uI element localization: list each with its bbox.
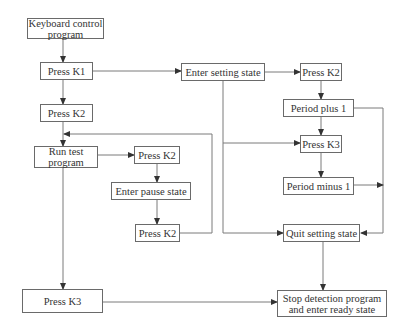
node-enter-setting-state: Enter setting state xyxy=(181,63,265,81)
node-label-line1: Stop detection program xyxy=(283,293,382,304)
node-label-line2: program xyxy=(48,29,84,40)
node-label-line2: and enter ready state xyxy=(289,304,376,315)
node-label-line2: program xyxy=(48,157,84,168)
node-period-minus-1: Period minus 1 xyxy=(283,177,354,195)
node-press-k2-right: Press K2 xyxy=(300,63,342,81)
node-press-k1: Press K1 xyxy=(40,62,93,80)
node-press-k2-pause: Press K2 xyxy=(135,224,180,242)
node-label-line1: Run test xyxy=(49,146,84,157)
node-quit-setting-state: Quit setting state xyxy=(283,224,360,242)
node-press-k3-left: Press K3 xyxy=(22,289,103,313)
node-press-k3-right: Press K3 xyxy=(300,135,342,153)
node-keyboard-control-program: Keyboard control program xyxy=(27,18,104,39)
node-period-plus-1: Period plus 1 xyxy=(283,99,354,117)
node-stop-detection-program: Stop detection program and enter ready s… xyxy=(277,290,387,317)
node-press-k2-mid: Press K2 xyxy=(134,146,180,164)
node-run-test-program: Run test program xyxy=(34,146,98,168)
node-label-line1: Keyboard control xyxy=(29,18,103,29)
node-enter-pause-state: Enter pause state xyxy=(111,182,191,200)
node-press-k2-left: Press K2 xyxy=(40,104,93,122)
